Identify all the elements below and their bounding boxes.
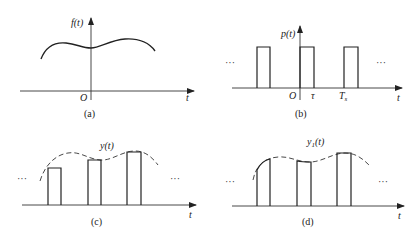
caption-c: (c) — [91, 216, 102, 228]
panel-c: ··· ··· y(t) t (c) — [17, 140, 196, 228]
ellipsis-left: ··· — [17, 173, 27, 184]
ellipsis-right: ··· — [378, 176, 388, 187]
curve-label: y(t) — [99, 140, 115, 152]
ellipsis-left: ··· — [225, 176, 235, 187]
panel-a: f(t) O t (a) — [20, 17, 194, 120]
x-axis-label: t — [397, 92, 400, 103]
sampling-diagram: f(t) O t (a) ··· ··· p(t) O τ Ts t (b) ·… — [0, 0, 416, 237]
curve-label: y1(t) — [306, 136, 325, 149]
ellipsis-right: ··· — [376, 57, 386, 68]
panel-b: ··· ··· p(t) O τ Ts t (b) — [225, 26, 402, 120]
ellipsis-left: ··· — [225, 57, 235, 68]
x-axis-label: t — [189, 209, 192, 220]
flat-pulse-1 — [48, 168, 61, 205]
x-axis-label: t — [398, 210, 401, 221]
envelope-dashed-curve — [40, 151, 158, 181]
y-axis-label: p(t) — [280, 28, 296, 40]
signal-curve — [41, 39, 155, 59]
origin-label: O — [80, 92, 87, 103]
caption-a: (a) — [84, 108, 95, 120]
curved-pulse-2 — [297, 161, 311, 206]
panel-d: ··· ··· y1(t) t (d) — [225, 136, 404, 228]
tau-label: τ — [311, 90, 315, 101]
pulse-3 — [344, 47, 358, 88]
curved-pulse-3 — [337, 153, 351, 206]
x-axis-label: t — [186, 92, 189, 103]
curved-pulse-1 — [257, 159, 270, 206]
caption-b: (b) — [295, 108, 307, 120]
period-label: Ts — [339, 90, 348, 103]
flat-pulse-2 — [88, 160, 101, 205]
ellipsis-right: ··· — [170, 173, 180, 184]
origin-label: O — [289, 90, 296, 101]
pulse-1 — [257, 47, 270, 88]
caption-d: (d) — [302, 216, 314, 228]
y-axis-label: f(t) — [71, 17, 84, 29]
pulse-2 — [300, 47, 314, 88]
flat-pulse-3 — [127, 152, 141, 205]
